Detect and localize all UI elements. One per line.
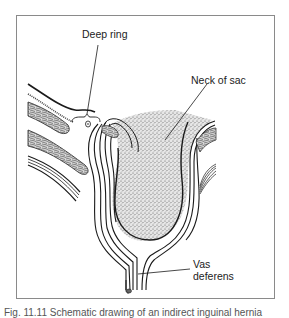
label-neck-of-sac: Neck of sac xyxy=(191,74,246,86)
label-deep-ring: Deep ring xyxy=(82,28,128,40)
deep-ring-leader xyxy=(87,45,98,114)
label-vas-deferens-line1: Vas xyxy=(193,258,210,270)
figure-caption-truncated: Fig. 11.11 Schematic drawing of an indir… xyxy=(4,307,262,318)
hernia-sac xyxy=(112,110,212,241)
vas-leader xyxy=(138,269,190,274)
label-vas-deferens-line2: deferens xyxy=(193,270,234,282)
